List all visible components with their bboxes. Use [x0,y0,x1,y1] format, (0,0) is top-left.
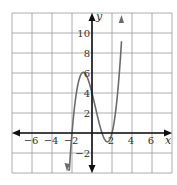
y-axis-down-arrow-icon [89,165,96,173]
x-tick-label: 2 [108,135,114,146]
tick-labels: −6−4−2246−2246810xy [24,10,172,159]
y-tick-label: 6 [84,68,90,79]
x-tick-label: 6 [148,135,154,146]
y-axis-up-arrow-icon [89,13,96,21]
x-tick-label: −6 [24,135,39,146]
y-axis-label: y [95,10,103,23]
polynomial-graph: −6−4−2246−2246810xy [0,0,177,185]
x-tick-label: 4 [128,135,134,146]
curve-arrow-up-icon [119,15,124,23]
y-tick-label: 4 [84,88,90,99]
x-axis-left-arrow-icon [12,130,20,137]
x-tick-label: −2 [64,135,79,146]
y-tick-label: −2 [75,148,90,159]
y-tick-label: 2 [84,108,90,119]
x-axis-label: x [165,134,172,147]
y-tick-label: 8 [84,48,90,59]
y-tick-label: 10 [77,28,90,39]
x-tick-label: −4 [44,135,59,146]
